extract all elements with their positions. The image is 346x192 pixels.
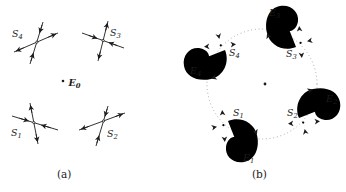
panel-a: S4 S3 S1 S2 E0 (a) [11, 21, 125, 180]
saddle-s2-glyph [79, 106, 125, 146]
label-s4-a: S4 [12, 28, 23, 41]
e0-equilibrium-dot [62, 80, 65, 83]
label-s1-a: S1 [11, 127, 22, 140]
caption-a: (a) [57, 168, 71, 180]
label-s1-b: S1 [233, 107, 244, 120]
label-s3-b: S3 [286, 48, 297, 61]
label-e0: E0 [68, 77, 81, 90]
center-dot-b [264, 83, 267, 86]
label-s2-b: S2 [287, 107, 298, 120]
caption-b: (b) [252, 168, 267, 180]
label-s4-b: S4 [229, 47, 240, 60]
label-s3-a: S3 [110, 27, 121, 40]
dotted-circle [207, 29, 317, 139]
panel-b: E3 S3 S4 E4 S1 E1 S2 E2 (b) [184, 6, 341, 180]
saddle-s4-glyph [14, 22, 58, 64]
figure: S4 S3 S1 S2 E0 (a) E3 S3 S4 E4 S1 E1 S2 … [0, 0, 346, 192]
figure-canvas: S4 S3 S1 S2 E0 (a) E3 S3 S4 E4 S1 E1 S2 … [0, 0, 346, 192]
saddle-s3-glyph [82, 21, 124, 61]
label-s2-a: S2 [107, 128, 118, 141]
